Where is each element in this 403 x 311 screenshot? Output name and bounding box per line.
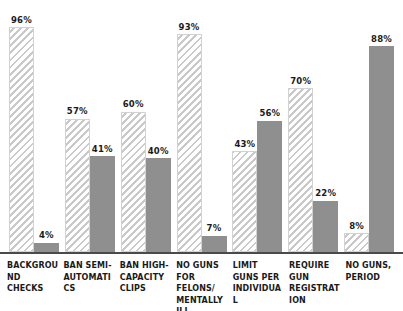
- bar-value-label: 60%: [123, 100, 144, 109]
- bar-value-label: 57%: [67, 107, 88, 116]
- bar-group: 60%40%: [118, 0, 174, 252]
- bar-wrap: 88%: [369, 0, 394, 252]
- bar-hatched: [232, 151, 257, 252]
- bar-wrap: 57%: [65, 0, 90, 252]
- bar-wrap: 41%: [90, 0, 115, 252]
- bar-group: 93%7%: [174, 0, 230, 252]
- category-label: Ban high-capacity clips: [117, 257, 173, 311]
- bar-wrap: 56%: [257, 0, 282, 252]
- plot-area: 96%4%57%41%60%40%93%7%43%56%70%22%8%88%: [0, 0, 403, 252]
- bar-solid: [313, 201, 338, 252]
- bar-solid: [90, 156, 115, 252]
- category-label: No guns for felons/ mentally ill: [173, 257, 229, 311]
- bar-value-label: 22%: [315, 189, 336, 198]
- x-axis-baseline: [0, 252, 403, 254]
- bar-wrap: 8%: [344, 0, 369, 252]
- bar-wrap: 60%: [121, 0, 146, 252]
- category-label: No guns, period: [343, 257, 399, 311]
- bar-value-label: 43%: [234, 140, 255, 149]
- bar-value-label: 8%: [349, 222, 364, 231]
- bar-value-label: 4%: [39, 231, 54, 240]
- bar-solid: [34, 243, 59, 252]
- bar-group: 43%56%: [229, 0, 285, 252]
- bar-group: 8%88%: [341, 0, 397, 252]
- bar-hatched: [288, 88, 313, 252]
- category-label: Require gun registration: [286, 257, 342, 311]
- bar-hatched: [65, 119, 90, 252]
- bar-hatched: [121, 112, 146, 252]
- bar-wrap: 70%: [288, 0, 313, 252]
- bar-group: 96%4%: [6, 0, 62, 252]
- bar-solid: [369, 46, 394, 252]
- bar-wrap: 96%: [9, 0, 34, 252]
- bar-hatched: [9, 27, 34, 252]
- bar-group: 70%22%: [285, 0, 341, 252]
- bar-solid: [202, 236, 227, 252]
- bar-hatched: [177, 34, 202, 252]
- bar-wrap: 4%: [34, 0, 59, 252]
- category-label: Limit guns per individual: [230, 257, 286, 311]
- category-label: Ban semi-automatics: [60, 257, 116, 311]
- bar-solid: [146, 158, 171, 252]
- bar-wrap: 43%: [232, 0, 257, 252]
- bar-value-label: 56%: [259, 109, 280, 118]
- bar-value-label: 93%: [179, 23, 200, 32]
- bar-value-label: 40%: [148, 147, 169, 156]
- bar-value-label: 41%: [92, 145, 113, 154]
- bar-value-label: 7%: [207, 224, 222, 233]
- bar-wrap: 40%: [146, 0, 171, 252]
- grouped-bar-chart: 96%4%57%41%60%40%93%7%43%56%70%22%8%88% …: [0, 0, 403, 311]
- bar-group: 57%41%: [62, 0, 118, 252]
- bar-value-label: 96%: [11, 16, 32, 25]
- category-label: Background checks: [4, 257, 60, 311]
- bar-wrap: 7%: [202, 0, 227, 252]
- bar-value-label: 70%: [290, 77, 311, 86]
- bar-value-label: 88%: [371, 35, 392, 44]
- category-axis: Background checksBan semi-automaticsBan …: [0, 257, 403, 311]
- bar-wrap: 22%: [313, 0, 338, 252]
- bar-wrap: 93%: [177, 0, 202, 252]
- bar-solid: [257, 121, 282, 252]
- bar-hatched: [344, 233, 369, 252]
